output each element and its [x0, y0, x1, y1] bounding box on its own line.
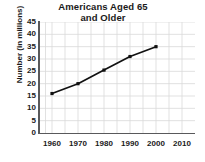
data-point-marker: [128, 55, 131, 58]
data-series-line: [39, 22, 195, 133]
data-point-marker: [50, 92, 53, 95]
y-axis-line: [38, 21, 40, 134]
chart-container: Americans Aged 65 and Older Number (in m…: [0, 0, 205, 162]
data-point-marker: [76, 82, 79, 85]
plot-area: [39, 22, 195, 133]
x-axis-line: [38, 133, 195, 135]
x-tick-label: 2010: [165, 140, 199, 148]
data-point-marker: [102, 69, 105, 72]
data-point-marker: [154, 45, 157, 48]
